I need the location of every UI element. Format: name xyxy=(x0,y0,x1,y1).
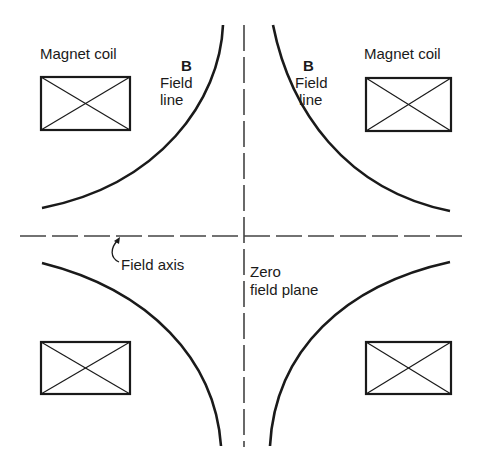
b-symbol-top-left: B xyxy=(181,57,192,74)
diagram-graphics xyxy=(0,0,480,470)
magnet-coil-bottom-right xyxy=(366,342,451,394)
zero-field-plane-label-1: Zero xyxy=(250,263,281,280)
magnet-coil-bottom-left xyxy=(41,342,130,394)
zero-field-plane-label-2: field plane xyxy=(250,281,318,298)
field-line-bottom-left xyxy=(42,263,221,446)
quadrupole-diagram: Magnet coil Magnet coil B Field line B F… xyxy=(0,0,480,470)
b-symbol-top-right: B xyxy=(303,57,314,74)
field-line-label-top-right-1: Field xyxy=(295,74,328,91)
magnet-coil-label-top-right: Magnet coil xyxy=(364,45,441,62)
field-axis-arrow-icon xyxy=(112,237,120,262)
field-line-label-top-right-2: line xyxy=(299,91,322,108)
magnet-coil-top-left xyxy=(41,77,130,130)
field-axis-label: Field axis xyxy=(121,256,184,273)
magnet-coil-label-top-left: Magnet coil xyxy=(40,45,117,62)
field-line-label-top-left-1: Field xyxy=(160,74,193,91)
field-line-label-top-left-2: line xyxy=(160,91,183,108)
magnet-coil-top-right xyxy=(366,78,451,131)
